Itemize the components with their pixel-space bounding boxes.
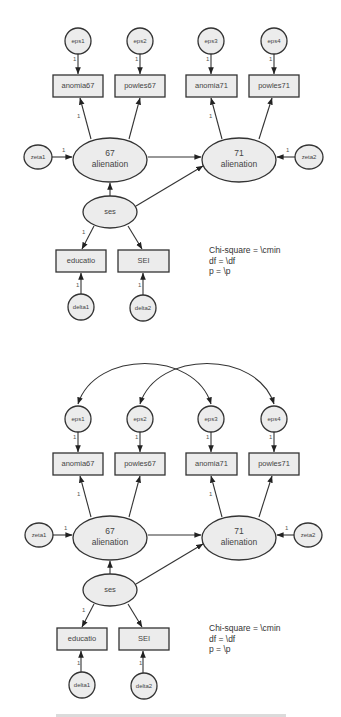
node-alienation67: 67 alienation	[73, 516, 147, 560]
node-alienation67: 67 alienation	[73, 138, 147, 182]
svg-text:eps4: eps4	[267, 38, 281, 44]
node-delta2: delta2	[131, 673, 157, 699]
path-alien67-anomia67	[80, 476, 91, 517]
path-ses-alien71	[136, 166, 203, 206]
node-eps2: eps2	[127, 28, 153, 54]
svg-text:powles71: powles71	[258, 459, 290, 468]
node-educatio: educatio	[56, 250, 106, 272]
error-covariances	[78, 364, 274, 405]
node-eps3: eps3	[198, 406, 224, 432]
fit-statistics: Chi-square = \cmin df = \df p = \p	[209, 245, 281, 276]
weight-label: 1	[206, 434, 210, 440]
weight-label: 1	[82, 229, 86, 235]
svg-text:eps3: eps3	[204, 38, 218, 44]
node-powles67: powles67	[115, 75, 165, 97]
svg-text:67: 67	[105, 148, 115, 158]
path-ses-SEI	[128, 226, 142, 249]
sem-diagram-1: 1 1 1 1 1 1 1 1 1 1 1 eps1 eps2 eps3 eps…	[24, 28, 323, 321]
node-ses: ses	[83, 196, 137, 228]
svg-text:delta2: delta2	[135, 305, 152, 311]
svg-text:df = \df: df = \df	[209, 256, 236, 266]
svg-text:71: 71	[234, 148, 244, 158]
path-ses-SEI	[128, 604, 142, 627]
path-alien71-powles71	[259, 98, 272, 139]
node-zeta1: zeta1	[24, 145, 52, 169]
svg-text:anomia71: anomia71	[195, 81, 228, 90]
node-anomia67: anomia67	[53, 75, 103, 97]
svg-text:alienation: alienation	[221, 537, 258, 547]
weight-label: 1	[206, 56, 210, 62]
weight-label: 1	[139, 660, 143, 666]
weight-label: 1	[209, 491, 213, 497]
weight-label: 1	[62, 147, 66, 153]
svg-text:educatio: educatio	[67, 256, 95, 265]
weight-label: 1	[77, 660, 81, 666]
node-zeta2: zeta2	[294, 523, 322, 547]
svg-text:powles71: powles71	[258, 81, 290, 90]
weight-label: 1	[135, 56, 139, 62]
node-delta1: delta1	[68, 294, 94, 320]
svg-text:delta1: delta1	[73, 304, 90, 310]
path-ses-alien71	[136, 544, 203, 584]
svg-text:SEI: SEI	[137, 256, 149, 265]
svg-text:alienation: alienation	[92, 537, 129, 547]
node-eps4: eps4	[261, 406, 287, 432]
sem-diagram-2: 1 1 1 1 1 1 1 1 1 1 1 eps1 eps2 eps3 eps…	[25, 364, 322, 700]
svg-text:powles67: powles67	[124, 81, 156, 90]
weight-label: 1	[286, 147, 290, 153]
svg-text:zeta2: zeta2	[302, 154, 317, 160]
svg-text:Chi-square = \cmin: Chi-square = \cmin	[209, 245, 281, 255]
path-alien71-anomia71	[211, 98, 222, 139]
weight-label: 1	[73, 56, 77, 62]
node-powles67: powles67	[115, 453, 165, 475]
weight-label: 1	[269, 56, 273, 62]
svg-text:Chi-square = \cmin: Chi-square = \cmin	[209, 623, 281, 633]
node-alienation71: 71 alienation	[202, 516, 276, 560]
node-SEI: SEI	[119, 628, 169, 650]
weight-label: 1	[82, 607, 86, 613]
svg-text:zeta1: zeta1	[32, 532, 47, 538]
svg-text:eps2: eps2	[133, 38, 147, 44]
svg-text:67: 67	[105, 526, 115, 536]
node-powles71: powles71	[249, 453, 299, 475]
node-eps3: eps3	[198, 28, 224, 54]
path-alien71-anomia71	[211, 476, 222, 517]
path-alien71-powles71	[259, 476, 272, 517]
node-anomia67: anomia67	[53, 453, 103, 475]
svg-text:p = \p: p = \p	[209, 266, 231, 276]
weight-label: 1	[73, 434, 77, 440]
path-alien67-powles67	[129, 98, 140, 139]
node-SEI: SEI	[118, 250, 169, 272]
weight-label: 1	[285, 525, 289, 531]
node-delta1: delta1	[69, 672, 95, 698]
weight-label: 1	[138, 282, 142, 288]
svg-text:alienation: alienation	[92, 159, 129, 169]
weight-label: 1	[77, 113, 81, 119]
node-powles71: powles71	[249, 75, 299, 97]
node-zeta1: zeta1	[25, 523, 53, 547]
svg-text:eps4: eps4	[267, 416, 281, 422]
node-eps2: eps2	[127, 406, 153, 432]
svg-text:zeta2: zeta2	[301, 532, 316, 538]
node-ses: ses	[83, 574, 137, 606]
svg-text:anomia67: anomia67	[62, 459, 95, 468]
weight-label: 1	[64, 525, 68, 531]
svg-text:eps3: eps3	[204, 416, 218, 422]
svg-text:71: 71	[234, 526, 244, 536]
svg-text:zeta1: zeta1	[31, 154, 46, 160]
node-eps1: eps1	[65, 406, 91, 432]
weight-label: 1	[76, 282, 80, 288]
svg-text:eps1: eps1	[71, 38, 85, 44]
node-anomia71: anomia71	[186, 453, 237, 475]
path-alien67-powles67	[129, 476, 140, 517]
weight-label: 1	[269, 434, 273, 440]
svg-text:educatio: educatio	[68, 634, 96, 643]
covariance-eps2-eps4	[140, 364, 274, 405]
svg-text:powles67: powles67	[124, 459, 156, 468]
svg-text:df = \df: df = \df	[209, 634, 236, 644]
node-anomia71: anomia71	[186, 75, 237, 97]
sem-figure: 1 1 1 1 1 1 1 1 1 1 1 eps1 eps2 eps3 eps…	[0, 0, 341, 717]
node-alienation71: 71 alienation	[202, 138, 276, 182]
weight-label: 1	[135, 434, 139, 440]
path-alien67-anomia67	[80, 98, 91, 139]
